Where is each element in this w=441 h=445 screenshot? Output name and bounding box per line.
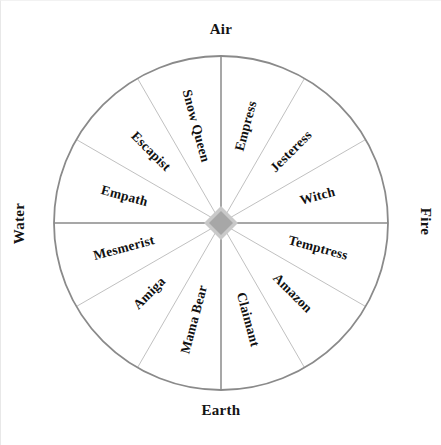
- center-diamond-icon: [204, 206, 238, 240]
- segment-label: Snow Queen: [180, 88, 214, 164]
- segment-label: Claimant: [234, 291, 263, 349]
- segment-label: Mesmerist: [92, 232, 157, 263]
- archetype-wheel: EmpressJesteressWitchTemptressAmazonClai…: [1, 1, 441, 445]
- segment-label: Escapist: [128, 128, 174, 174]
- segment-label: Temptress: [287, 232, 350, 262]
- segment-label: Empath: [100, 182, 150, 209]
- segment-label: Empress: [232, 99, 260, 153]
- segment-label: Witch: [298, 184, 337, 208]
- segment-label: Amiga: [130, 274, 168, 312]
- segment-label: Amazon: [270, 270, 316, 316]
- segment-label: Mama Bear: [177, 283, 210, 355]
- segment-label: Jesteress: [267, 127, 315, 175]
- diagram-page: Air Fire Earth Water EmpressJesteressWit…: [0, 0, 441, 445]
